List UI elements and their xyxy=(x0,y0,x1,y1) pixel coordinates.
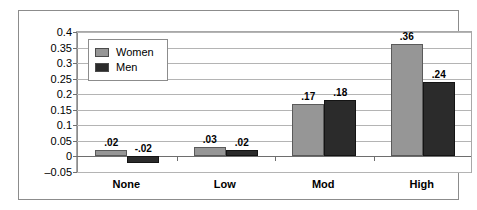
legend-swatch-women-icon xyxy=(95,48,109,57)
y-axis-tick-mark xyxy=(73,141,77,142)
bar-mod-men xyxy=(324,100,356,156)
y-axis-tick-label: 0.1 xyxy=(57,120,72,131)
y-axis-tick-label: 0.05 xyxy=(51,135,72,146)
bar-value-label-low-men: .02 xyxy=(220,138,264,148)
x-axis-label-none: None xyxy=(77,178,176,190)
y-axis-tick-mark xyxy=(73,172,77,173)
y-axis-tick-label: 0 xyxy=(66,151,72,162)
y-axis-tick-label: –0.05 xyxy=(44,167,72,178)
y-axis-tick-mark xyxy=(73,48,77,49)
bar-mod-women xyxy=(292,104,324,157)
bar-high-women xyxy=(391,44,423,156)
x-axis-label-low: Low xyxy=(176,178,275,190)
bar-none-men xyxy=(127,156,159,162)
bar-low-women xyxy=(194,147,226,156)
y-axis-tick-mark xyxy=(73,32,77,33)
y-axis-tick-label: 0.15 xyxy=(51,104,72,115)
y-axis-tick-mark xyxy=(73,79,77,80)
y-axis-tick-mark xyxy=(73,125,77,126)
bar-high-men xyxy=(423,82,455,157)
legend-item-men: Men xyxy=(95,60,161,75)
y-axis-tick-mark xyxy=(73,156,77,157)
y-axis-tick-mark xyxy=(73,94,77,95)
bar-low-men xyxy=(226,150,258,156)
legend-item-women: Women xyxy=(95,45,161,60)
legend-label-men: Men xyxy=(116,62,137,73)
bar-value-label-high-men: .24 xyxy=(417,70,461,80)
x-axis-label-mod: Mod xyxy=(274,178,373,190)
x-axis-label-high: High xyxy=(373,178,472,190)
y-axis-tick-label: 0.2 xyxy=(57,89,72,100)
legend-swatch-men-icon xyxy=(95,63,109,72)
y-axis-tick-label: 0.35 xyxy=(51,42,72,53)
gridline xyxy=(77,172,471,173)
y-axis-tick-label: 0.4 xyxy=(57,27,72,38)
bar-value-label-mod-men: .18 xyxy=(318,88,362,98)
y-axis-tick-mark xyxy=(73,110,77,111)
y-axis-tick-mark xyxy=(73,63,77,64)
bar-value-label-high-women: .36 xyxy=(385,32,429,42)
legend-label-women: Women xyxy=(116,47,154,58)
y-axis-tick-label: 0.25 xyxy=(51,73,72,84)
chart-legend: Women Men xyxy=(88,39,168,81)
chart-frame: 0.40.350.30.250.20.150.10.050–0.05 .02-.… xyxy=(18,10,459,200)
bar-value-label-none-men: -.02 xyxy=(121,144,165,154)
y-axis-tick-label: 0.3 xyxy=(57,58,72,69)
